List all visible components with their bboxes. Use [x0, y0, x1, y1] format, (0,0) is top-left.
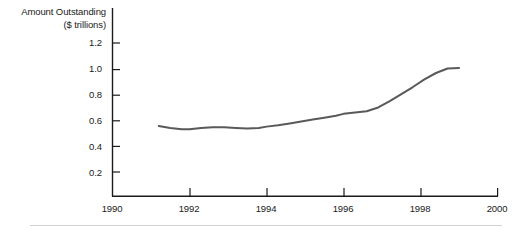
data-series-line	[159, 68, 459, 129]
x-axis-ticks	[190, 188, 498, 196]
y-axis-ticks	[113, 43, 121, 172]
chart-container: Amount Outstanding ($ trillions) 1.2 1.0…	[0, 0, 517, 232]
plot-area	[0, 0, 517, 232]
footer-divider	[30, 225, 502, 226]
